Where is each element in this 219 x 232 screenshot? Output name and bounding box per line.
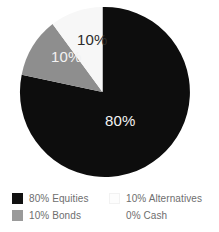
pie-label-bonds: 10% [51,49,82,64]
pie-label-alternatives: 10% [77,32,108,47]
legend-label-bonds: 10% Bonds [29,211,81,221]
pie-label-equities: 80% [105,113,136,128]
legend-label-cash: 0% Cash [126,211,167,221]
legend-swatch-bonds-icon [12,210,23,221]
legend-label-alternatives: 10% Alternatives [126,194,202,204]
pie-chart-svg [0,0,219,186]
legend-item-cash: 0% Cash [109,207,212,224]
legend-item-alternatives: 10% Alternatives [109,190,212,207]
legend-swatch-equities-icon [12,193,23,204]
legend-label-equities: 80% Equities [29,194,89,204]
pie-chart: 80% 10% 10% [0,0,219,186]
chart-legend: 80% Equities 10% Alternatives 10% Bonds … [12,190,212,224]
legend-swatch-alternatives-icon [109,193,120,204]
legend-item-equities: 80% Equities [12,190,109,207]
legend-item-bonds: 10% Bonds [12,207,109,224]
legend-swatch-cash-icon [109,210,120,221]
pie-chart-page: 80% 10% 10% 80% Equities 10% Alternative… [0,0,219,232]
